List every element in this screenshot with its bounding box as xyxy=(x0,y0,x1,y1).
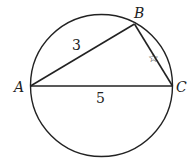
label-AB-length: 3 xyxy=(72,37,81,53)
label-C: C xyxy=(176,79,187,95)
label-AC-length: 5 xyxy=(96,90,105,106)
star-icon: ☆ xyxy=(148,51,159,65)
segment-AB xyxy=(31,24,135,86)
label-A: A xyxy=(12,79,24,95)
circle-triangle-diagram: A B C 3 5 ☆ xyxy=(0,0,194,164)
label-B: B xyxy=(133,5,144,21)
